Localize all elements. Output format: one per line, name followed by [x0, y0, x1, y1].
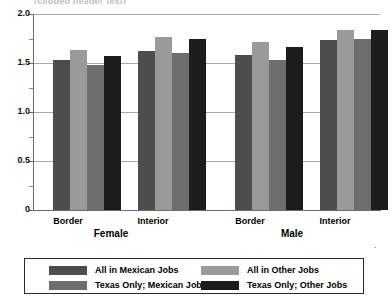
bar	[189, 39, 206, 210]
legend-swatch	[49, 281, 87, 290]
y-axis-tick-label: 2.0	[17, 9, 30, 18]
legend-swatch	[201, 281, 239, 290]
bar	[104, 56, 121, 210]
x-axis-category-label: Interior	[113, 216, 193, 226]
x-axis-category-label: Border	[28, 216, 108, 226]
chart-figure: (clipped header text) 00.51.01.52.0 Bord…	[0, 0, 392, 300]
y-axis-tick-label: 1.5	[17, 58, 30, 67]
bar	[320, 40, 337, 210]
clipped-title: (clipped header text)	[34, 0, 264, 4]
legend-swatch	[49, 266, 87, 275]
bar	[155, 37, 172, 210]
bar	[138, 51, 155, 210]
x-axis-category-label: Interior	[295, 216, 375, 226]
bar	[70, 50, 87, 210]
x-axis-group-label: Female	[61, 228, 161, 239]
bar	[235, 55, 252, 210]
y-axis-labels: 00.51.01.52.0	[0, 14, 30, 211]
legend-label: Texas Only; Mexican Jobs	[95, 279, 207, 292]
bar	[252, 42, 269, 210]
bar	[269, 60, 286, 210]
chart-legend: All in Mexican JobsAll in Other JobsTexa…	[24, 258, 364, 294]
x-axis-category-label: Border	[210, 216, 290, 226]
x-axis-group-label: Male	[242, 228, 342, 239]
x-axis-line	[33, 210, 381, 211]
bar	[87, 65, 104, 210]
bar	[172, 53, 189, 210]
bar	[371, 30, 388, 210]
legend-label: All in Other Jobs	[247, 264, 319, 277]
y-axis-tick-label: 1.0	[17, 107, 30, 116]
y-axis-tick-label: 0.5	[17, 156, 30, 165]
bar-series-container	[34, 14, 380, 210]
y-axis-tick-label: 0	[25, 205, 30, 214]
legend-label: Texas Only; Other Jobs	[247, 279, 347, 292]
bar	[354, 39, 371, 211]
legend-swatch	[201, 266, 239, 275]
bar	[286, 47, 303, 210]
legend-label: All in Mexican Jobs	[95, 264, 179, 277]
bar	[53, 60, 70, 210]
bar	[337, 30, 354, 210]
stray-mark: .	[374, 240, 377, 250]
